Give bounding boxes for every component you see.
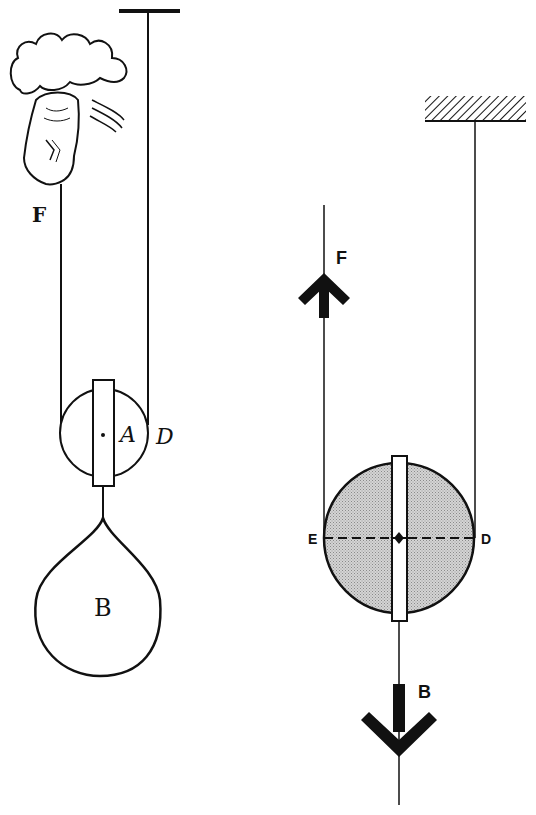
label-point-e: E [308, 531, 317, 547]
pulley-strap-left [93, 380, 114, 486]
label-force-right: F [336, 248, 347, 268]
pulley-diagram: F A D B F [0, 0, 536, 815]
axle-dot-left [101, 433, 105, 437]
right-figure: F E D B [298, 96, 526, 805]
label-point-d-right: D [481, 531, 491, 547]
hand-icon [11, 34, 127, 185]
left-figure: F A D B [11, 11, 180, 676]
label-weight-b-right: B [418, 682, 431, 702]
label-rim-d-left: D [155, 424, 174, 449]
label-axle-a: A [118, 422, 136, 447]
hatched-ceiling [425, 96, 526, 120]
force-arrow-up-icon [298, 273, 350, 318]
label-weight-b-left: B [94, 594, 112, 622]
label-force-left: F [32, 203, 46, 227]
